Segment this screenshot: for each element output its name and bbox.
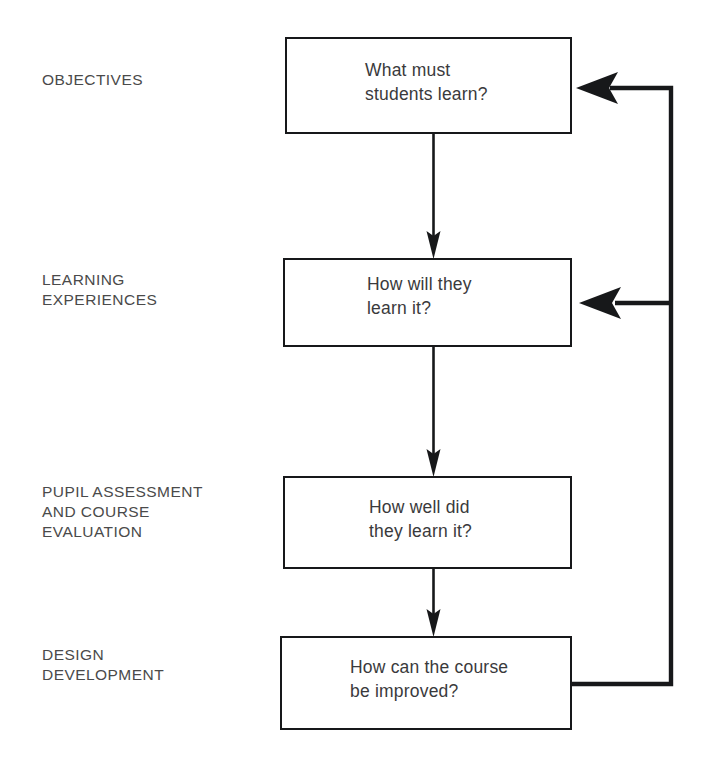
arrow-learning-to-assessment xyxy=(427,346,441,477)
node-text-pupil-assessment: How well did they learn it? xyxy=(369,495,579,543)
feedback-loop-design-to-objectives xyxy=(571,72,671,684)
feedback-branch-to-learning xyxy=(579,287,671,319)
arrow-assessment-to-design xyxy=(427,568,441,637)
stage-label-pupil-assessment: PUPIL ASSESSMENT AND COURSE EVALUATION xyxy=(42,482,203,542)
arrow-objectives-to-learning xyxy=(427,133,441,259)
node-text-objectives: What must students learn? xyxy=(365,58,575,106)
stage-label-learning-experiences: LEARNING EXPERIENCES xyxy=(42,270,157,310)
flowchart-diagram: OBJECTIVES What must students learn? LEA… xyxy=(0,0,707,769)
stage-label-objectives: OBJECTIVES xyxy=(42,70,143,90)
node-text-design-development: How can the course be improved? xyxy=(350,655,590,703)
node-text-learning-experiences: How will they learn it? xyxy=(367,272,577,320)
stage-label-design-development: DESIGN DEVELOPMENT xyxy=(42,645,164,685)
